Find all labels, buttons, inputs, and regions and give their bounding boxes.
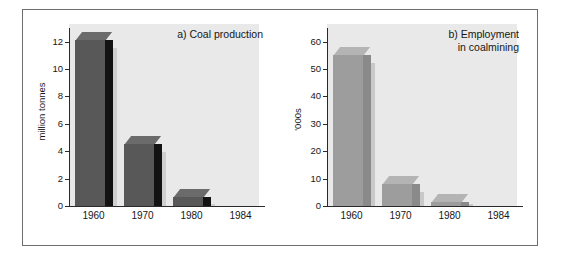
y-tick-b-6 <box>323 42 327 43</box>
y-tick-a-5 <box>65 69 69 70</box>
y-tick-label-b-3: 30 <box>310 119 321 129</box>
chart-title-b: b) Employment in coalmining <box>448 28 519 54</box>
bar-top-face-a-1970 <box>124 136 160 144</box>
y-tick-label-b-2: 20 <box>310 146 321 156</box>
y-tick-b-4 <box>323 96 327 97</box>
chart-coal-production: 024681012 1960197019801984 million tonne… <box>23 10 281 247</box>
x-axis-a <box>69 206 265 207</box>
y-tick-label-a-3: 6 <box>58 119 63 129</box>
x-tick-label-b-3: 1984 <box>475 210 523 221</box>
bar-side-face-b-1980 <box>461 202 469 206</box>
bar-front-face-a-1970 <box>124 144 154 206</box>
y-tick-label-b-1: 10 <box>310 174 321 184</box>
x-tick-label-a-3: 1984 <box>217 210 265 221</box>
bar-top-face-b-1970 <box>382 176 418 184</box>
y-axis-b <box>327 28 328 206</box>
bar-side-face-a-1960 <box>105 40 113 206</box>
y-tick-b-3 <box>323 124 327 125</box>
bar-top-face-b-1960 <box>333 47 369 55</box>
y-tick-a-1 <box>65 179 69 180</box>
y-axis-a <box>69 28 70 206</box>
bar-side-face-b-1970 <box>412 184 420 206</box>
figure-page: 024681012 1960197019801984 million tonne… <box>0 0 563 261</box>
bar-front-face-b-1970 <box>382 184 412 206</box>
chart-title-a: a) Coal production <box>177 28 263 41</box>
bar-front-face-b-1960 <box>333 55 363 206</box>
bar-b-1960 <box>333 47 371 206</box>
bar-top-face-b-1980 <box>431 194 467 202</box>
y-tick-a-3 <box>65 124 69 125</box>
y-tick-b-1 <box>323 179 327 180</box>
bar-b-1970 <box>382 176 420 206</box>
x-tick-label-a-1: 1970 <box>119 210 167 221</box>
bar-front-face-a-1980 <box>173 197 203 206</box>
bar-a-1970 <box>124 136 162 206</box>
y-tick-b-2 <box>323 151 327 152</box>
bar-front-face-a-1960 <box>75 40 105 206</box>
bar-top-face-a-1960 <box>75 32 111 40</box>
y-tick-label-b-0: 0 <box>316 201 321 211</box>
y-tick-a-6 <box>65 42 69 43</box>
x-tick-label-b-2: 1980 <box>426 210 474 221</box>
y-tick-label-a-1: 2 <box>58 174 63 184</box>
y-tick-label-b-5: 50 <box>310 64 321 74</box>
bar-side-face-a-1970 <box>154 144 162 206</box>
y-tick-label-a-0: 0 <box>58 201 63 211</box>
y-tick-label-b-6: 60 <box>310 37 321 47</box>
x-axis-b <box>327 206 523 207</box>
bar-side-face-a-1980 <box>203 197 211 206</box>
y-tick-label-a-6: 12 <box>52 37 63 47</box>
y-tick-a-2 <box>65 151 69 152</box>
chart-employment-coalmining: 0102030405060 1960197019801984 '000s b) … <box>281 10 537 247</box>
x-tick-label-b-1: 1970 <box>377 210 425 221</box>
y-tick-b-0 <box>323 206 327 207</box>
bar-a-1980 <box>173 189 211 206</box>
x-tick-label-a-2: 1980 <box>168 210 216 221</box>
bar-top-face-a-1980 <box>173 189 209 197</box>
bar-front-face-b-1980 <box>431 202 461 206</box>
y-tick-a-4 <box>65 96 69 97</box>
y-tick-label-a-2: 4 <box>58 146 63 156</box>
y-tick-a-0 <box>65 206 69 207</box>
y-tick-b-5 <box>323 69 327 70</box>
bar-side-face-b-1960 <box>363 55 371 206</box>
y-axis-title-b: '000s <box>292 80 303 160</box>
figure-frame: 024681012 1960197019801984 million tonne… <box>22 9 538 246</box>
bar-a-1960 <box>75 32 113 206</box>
x-tick-label-b-0: 1960 <box>328 210 376 221</box>
bar-b-1980 <box>431 194 469 206</box>
x-tick-label-a-0: 1960 <box>70 210 118 221</box>
y-tick-label-a-5: 10 <box>52 64 63 74</box>
y-tick-label-a-4: 8 <box>58 91 63 101</box>
y-tick-label-b-4: 40 <box>310 91 321 101</box>
y-axis-title-a: million tonnes <box>36 72 47 152</box>
